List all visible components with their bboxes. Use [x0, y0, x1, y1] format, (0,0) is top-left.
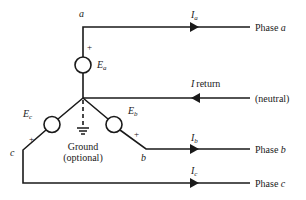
- arrow-ireturn-icon: [191, 93, 200, 103]
- arrow-ib-icon: [190, 144, 199, 154]
- three-phase-diagram: a b c + + + Ea Ec Eb Ia Ireturn Ib Ic Ph…: [0, 0, 306, 200]
- phase-a-wire: [83, 27, 250, 98]
- source-ea-icon: [75, 57, 91, 73]
- source-eb-icon: [106, 117, 122, 133]
- ec-plus-label: +: [29, 134, 34, 144]
- phase-a-label: Phase a: [255, 22, 286, 33]
- ireturn-label: Ireturn: [190, 78, 220, 89]
- ground-symbol-icon: [77, 128, 89, 134]
- source-ec-icon: [44, 117, 60, 133]
- ea-label: Ea: [96, 59, 107, 72]
- ea-plus-label: +: [87, 42, 92, 52]
- node-a-label: a: [79, 8, 84, 19]
- arrow-ic-icon: [190, 178, 199, 188]
- node-c-label: c: [10, 147, 15, 158]
- node-b-label: b: [141, 152, 146, 163]
- ib-label: Ib: [190, 132, 198, 145]
- ground-optional-label: (optional): [63, 152, 102, 164]
- ic-label: Ic: [190, 165, 198, 178]
- phase-c-label: Phase c: [255, 178, 286, 189]
- ec-label: Ec: [22, 108, 33, 121]
- ground-label: Ground: [68, 141, 99, 152]
- ia-label: Ia: [190, 9, 198, 22]
- neutral-label: (neutral): [255, 93, 289, 105]
- arrow-ia-icon: [190, 22, 199, 32]
- phase-b-label: Phase b: [255, 144, 286, 155]
- eb-label: Eb: [127, 105, 138, 118]
- eb-plus-label: +: [134, 129, 139, 139]
